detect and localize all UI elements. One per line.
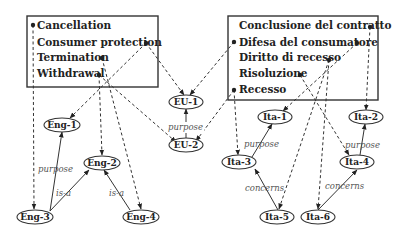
term-withdrawal: Withdrawal	[36, 67, 105, 79]
label-eng-isa-2: is-a	[109, 188, 124, 198]
svg-text:EU-2: EU-2	[174, 140, 199, 150]
svg-text:Ita-6: Ita-6	[306, 212, 330, 222]
svg-text:Ita-4: Ita-4	[345, 157, 369, 167]
term-termination: Termination	[37, 51, 109, 63]
node-eu-1: EU-1	[169, 95, 203, 109]
node-eng-3: Eng-3	[17, 210, 53, 224]
node-eu-2: EU-2	[169, 138, 203, 152]
svg-text:Ita-5: Ita-5	[265, 212, 289, 222]
svg-text:Eng-1: Eng-1	[47, 120, 77, 130]
node-ita-6: Ita-6	[301, 210, 335, 224]
english-terms-box: Cancellation Consumer protection Termina…	[27, 16, 162, 87]
label-ita-purpose-1: purpose	[244, 139, 279, 149]
label-eng-isa-1: is-a	[56, 188, 71, 198]
svg-text:Eng-4: Eng-4	[126, 212, 156, 222]
concept-nodes: EU-1 EU-2 Eng-1 Eng-2 Eng-3 Eng-4 Ita-1	[17, 95, 383, 224]
svg-text:Ita-1: Ita-1	[263, 112, 287, 122]
node-ita-1: Ita-1	[258, 110, 292, 124]
node-eng-2: Eng-2	[84, 156, 120, 170]
node-ita-4: Ita-4	[340, 155, 374, 169]
label-eu-purpose: purpose	[168, 122, 203, 132]
multilingual-concept-diagram: Cancellation Consumer protection Termina…	[0, 0, 403, 241]
term-consumer-protection: Consumer protection	[37, 36, 162, 48]
label-ita-concerns-1: concerns	[245, 183, 285, 193]
label-eng-purpose: purpose	[38, 164, 73, 174]
term-risoluzione: Risoluzione	[239, 67, 308, 79]
term-cancellation: Cancellation	[37, 19, 111, 31]
svg-text:Ita-3: Ita-3	[227, 157, 251, 167]
label-ita-concerns-2: concerns	[325, 181, 365, 191]
node-ita-5: Ita-5	[260, 210, 294, 224]
label-ita-purpose-2: purpose	[345, 140, 380, 150]
italian-terms-box: Conclusione del contratto Difesa del con…	[228, 16, 391, 100]
node-eng-1: Eng-1	[44, 118, 80, 132]
svg-text:Ita-2: Ita-2	[354, 112, 378, 122]
svg-text:Eng-2: Eng-2	[87, 158, 117, 168]
svg-text:EU-1: EU-1	[174, 97, 199, 107]
term-conclusione-del-contratto: Conclusione del contratto	[239, 19, 391, 31]
node-ita-2: Ita-2	[349, 110, 383, 124]
node-ita-3: Ita-3	[222, 155, 256, 169]
term-recesso: Recesso	[239, 83, 286, 95]
svg-text:Eng-3: Eng-3	[20, 212, 50, 222]
node-eng-4: Eng-4	[123, 210, 159, 224]
term-diritto-di-recesso: Diritto di recesso	[239, 51, 341, 63]
